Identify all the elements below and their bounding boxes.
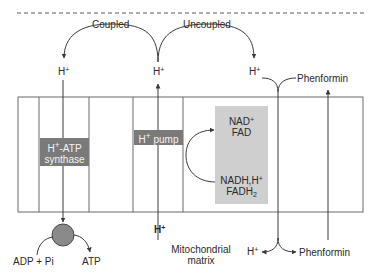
uncoupler-top-junction: [262, 78, 296, 92]
proton-left-top: H+: [58, 66, 69, 77]
atp-synthase-box: H+-ATP synthase: [40, 138, 89, 166]
atp-synthase-head-circle: [52, 224, 74, 246]
proton-pump-box: H+ pump: [134, 130, 183, 145]
atp-label: ATP: [82, 256, 101, 267]
reduced-cofactors: NADH,H+ FADH2: [213, 175, 270, 197]
uncoupler-bottom-junction-left: [262, 238, 278, 252]
uncoupled-label: Uncoupled: [183, 19, 231, 30]
mitochondria-diagram: H+-ATP synthase H+ pump Coupled Uncouple…: [0, 0, 377, 280]
redox-cycle-arrow: [186, 130, 216, 182]
proton-mid-top: H+: [153, 66, 164, 77]
mitochondrial-matrix-label: Mitochondrial matrix: [166, 244, 236, 266]
adp-input-arrow: [37, 237, 53, 255]
phenformin-bottom-label: Phenformin: [299, 247, 350, 258]
coupled-label: Coupled: [92, 19, 129, 30]
atp-synthase-label-line1: H+-ATP: [40, 140, 89, 154]
uncoupler-bottom-junction-right: [278, 238, 296, 252]
proton-right-top: H+: [249, 66, 260, 77]
proton-right-bottom: H+: [247, 246, 258, 257]
proton-mid-bottom: H+: [154, 224, 165, 235]
atp-output-arrow: [74, 235, 90, 252]
phenformin-top-label: Phenformin: [297, 73, 348, 84]
oxidized-cofactors: NAD+ FAD: [215, 116, 268, 138]
atp-synthase-label-line2: synthase: [40, 154, 89, 165]
adp-pi-label: ADP + Pi: [13, 256, 54, 267]
